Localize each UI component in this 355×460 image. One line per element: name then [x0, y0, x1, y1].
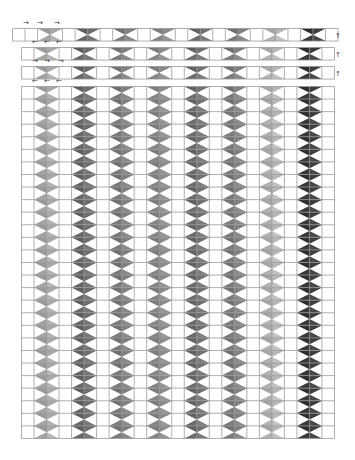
- bowtie-tile: [297, 193, 310, 199]
- bowtie-tile: [184, 193, 197, 199]
- bowtie-tile: [147, 306, 160, 312]
- bowtie-tile: [234, 313, 247, 319]
- bowtie-tile: [147, 269, 160, 275]
- bowtie-tile: [222, 193, 235, 199]
- bowtie-tile: [122, 275, 135, 281]
- bowtie-tile: [147, 193, 160, 199]
- bowtie-tile: [297, 244, 310, 250]
- bowtie-tile: [222, 344, 235, 350]
- bowtie-tile: [109, 93, 122, 99]
- bowtie-tile: [197, 187, 210, 193]
- bowtie-tile: [234, 325, 247, 331]
- bowtie-tile: [238, 29, 251, 35]
- bowtie-tile: [222, 118, 235, 124]
- bowtie-tile: [259, 369, 272, 375]
- bowtie-tile: [297, 181, 310, 187]
- bowtie-tile: [197, 262, 210, 268]
- bowtie-tile: [109, 206, 122, 212]
- bowtie-tile: [272, 67, 285, 73]
- bowtie-tile: [122, 288, 135, 294]
- bowtie-tile: [72, 244, 85, 250]
- bowtie-tile: [309, 262, 322, 268]
- bowtie-tile: [272, 149, 285, 155]
- arrow-left-icon: ←: [32, 39, 38, 46]
- bowtie-tile: [159, 67, 172, 73]
- bowtie-tile: [122, 313, 135, 319]
- bowtie-tile: [109, 244, 122, 250]
- bowtie-tile: [34, 306, 47, 312]
- bowtie-tile: [84, 237, 97, 243]
- bowtie-tile: [222, 218, 235, 224]
- bowtie-tile: [184, 394, 197, 400]
- bowtie-tile: [109, 306, 122, 312]
- bowtie-tile: [84, 212, 97, 218]
- bowtie-tile: [72, 168, 85, 174]
- bowtie-tile: [222, 244, 235, 250]
- bowtie-tile: [200, 29, 213, 35]
- bowtie-tile: [197, 162, 210, 168]
- bowtie-tile: [259, 54, 272, 60]
- arrow-right-icon: →: [54, 20, 60, 27]
- bowtie-tile: [122, 300, 135, 306]
- bowtie-tile: [297, 420, 310, 426]
- bowtie-tile: [147, 54, 160, 60]
- bowtie-tile: [84, 87, 97, 93]
- bowtie-tile: [72, 143, 85, 149]
- bowtie-tile: [272, 112, 285, 118]
- bowtie-tile: [109, 319, 122, 325]
- bowtie-tile: [259, 93, 272, 99]
- bowtie-tile: [222, 93, 235, 99]
- bowtie-tile: [309, 48, 322, 54]
- bowtie-tile: [72, 344, 85, 350]
- bowtie-tile: [72, 206, 85, 212]
- bowtie-tile: [309, 200, 322, 206]
- bowtie-tile: [184, 344, 197, 350]
- bowtie-tile: [272, 212, 285, 218]
- bowtie-tile: [309, 413, 322, 419]
- bowtie-tile: [72, 105, 85, 111]
- bowtie-tile: [34, 281, 47, 287]
- bowtie-tile: [184, 281, 197, 287]
- bowtie-tile: [34, 193, 47, 199]
- bowtie-tile: [122, 363, 135, 369]
- bowtie-tile: [147, 231, 160, 237]
- arrow-right-icon: →: [32, 58, 38, 65]
- bowtie-tile: [122, 137, 135, 143]
- bowtie-tile: [272, 137, 285, 143]
- bowtie-tile: [159, 225, 172, 231]
- bowtie-tile: [309, 237, 322, 243]
- bowtie-tile: [297, 332, 310, 338]
- bowtie-tile: [234, 174, 247, 180]
- bowtie-tile: [72, 407, 85, 413]
- bowtie-tile: [297, 130, 310, 136]
- bowtie-tile: [109, 54, 122, 60]
- bowtie-tile: [259, 244, 272, 250]
- bowtie-tile: [122, 174, 135, 180]
- bowtie-tile: [297, 105, 310, 111]
- bowtie-tile: [147, 93, 160, 99]
- bowtie-tile: [222, 382, 235, 388]
- bowtie-tile: [47, 288, 60, 294]
- bowtie-tile: [47, 212, 60, 218]
- bowtie-tile: [222, 332, 235, 338]
- bowtie-tile: [84, 401, 97, 407]
- bowtie-tile: [109, 181, 122, 187]
- bowtie-tile: [234, 187, 247, 193]
- bowtie-tile: [147, 181, 160, 187]
- bowtie-tile: [47, 363, 60, 369]
- bowtie-tile: [159, 250, 172, 256]
- bowtie-tile: [84, 200, 97, 206]
- bowtie-tile: [309, 363, 322, 369]
- bowtie-tile: [297, 319, 310, 325]
- bowtie-tile: [259, 206, 272, 212]
- bowtie-tile: [84, 376, 97, 382]
- bowtie-tile: [34, 394, 47, 400]
- bowtie-tile: [34, 420, 47, 426]
- arrow-left-icon: ←: [32, 78, 38, 85]
- bowtie-tile: [197, 426, 210, 432]
- bowtie-tile: [159, 187, 172, 193]
- bowtie-tile: [225, 35, 238, 41]
- bowtie-tile: [47, 48, 60, 54]
- bowtie-tile: [197, 376, 210, 382]
- bowtie-tile: [113, 35, 126, 41]
